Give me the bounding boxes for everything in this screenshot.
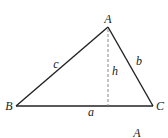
vertex-label-a: A xyxy=(104,13,111,25)
vertex-label-c: C xyxy=(156,100,164,112)
altitude-label-h: h xyxy=(112,65,118,77)
triangle-diagram xyxy=(0,0,168,138)
second-figure-vertex-label-a: A xyxy=(133,127,140,138)
side-label-a: a xyxy=(88,106,94,118)
side-label-c: c xyxy=(53,58,58,70)
side-c-line xyxy=(16,27,108,106)
vertex-label-b: B xyxy=(5,100,12,112)
side-label-b: b xyxy=(136,55,142,67)
